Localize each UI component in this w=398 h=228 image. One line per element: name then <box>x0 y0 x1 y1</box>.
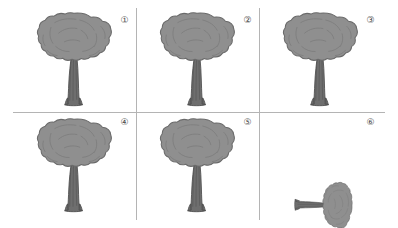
tree-illustration-4 <box>34 118 114 214</box>
panel-index-label-2: ② <box>241 14 254 27</box>
panel-index-label-4: ④ <box>118 116 131 129</box>
panel-index-label-3: ③ <box>364 14 377 27</box>
tree-illustration-6 <box>293 180 353 228</box>
panel-index-label-1: ① <box>118 14 131 27</box>
tree-rotation-figure-sheet: ①②③④⑤⑥ <box>0 0 398 228</box>
panel-index-label-5: ⑤ <box>241 116 254 129</box>
tree-illustration-1 <box>34 12 114 108</box>
tree-illustration-2 <box>157 12 237 108</box>
tree-illustration-5 <box>157 118 237 214</box>
tree-illustration-3 <box>280 12 360 108</box>
panel-index-label-6: ⑥ <box>364 116 377 129</box>
